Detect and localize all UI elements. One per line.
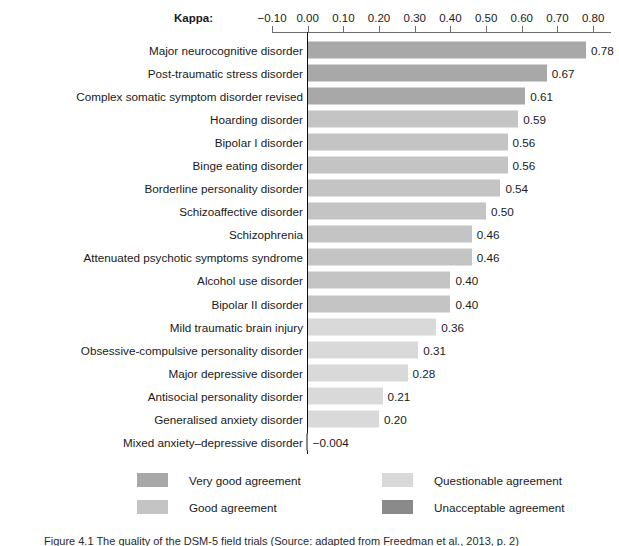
category-label: Post-traumatic stress disorder — [148, 66, 303, 79]
chart-row: Antisocial personality disorder0.21 — [0, 384, 619, 407]
bar-value-label: 0.46 — [477, 228, 500, 241]
category-label: Binge eating disorder — [193, 159, 303, 172]
chart-row: Alcohol use disorder0.40 — [0, 269, 619, 292]
bar-value-label: 0.40 — [455, 274, 478, 287]
bar-value-label: 0.50 — [491, 205, 514, 218]
chart-row: Post-traumatic stress disorder0.67 — [0, 61, 619, 84]
x-axis-tick-label: 0.30 — [404, 12, 426, 24]
category-label: Generalised anxiety disorder — [154, 413, 303, 426]
x-axis-tick-label: 0.60 — [511, 12, 533, 24]
bar-value-label: 0.56 — [513, 159, 536, 172]
bar-value-label: 0.31 — [423, 343, 446, 356]
bar-value-label: 0.54 — [505, 182, 528, 195]
x-axis-header: Kappa: −0.100.000.100.200.300.400.500.60… — [0, 12, 619, 28]
category-label: Attenuated psychotic symptoms syndrome — [83, 251, 303, 264]
category-label: Borderline personality disorder — [144, 182, 303, 195]
bar-value-label: 0.46 — [477, 251, 500, 264]
bar-value-label: 0.20 — [384, 413, 407, 426]
chart-row: Complex somatic symptom disorder revised… — [0, 84, 619, 107]
x-axis-title: Kappa: — [174, 12, 213, 24]
chart-row: Obsessive-compulsive personality disorde… — [0, 338, 619, 361]
x-axis-tick-mark — [272, 26, 273, 32]
x-axis-tick-label: 0.70 — [546, 12, 568, 24]
legend-label: Unacceptable agreement — [434, 498, 565, 518]
chart-legend: Very good agreementGood agreementQuestio… — [0, 471, 619, 523]
category-label: Major neurocognitive disorder — [149, 43, 303, 56]
bar-value-label: 0.78 — [591, 43, 614, 56]
category-label: Schizoaffective disorder — [179, 205, 303, 218]
x-axis-tick-label: 0.50 — [475, 12, 497, 24]
chart-row: Bipolar II disorder0.40 — [0, 292, 619, 315]
bar-questionable — [308, 318, 436, 335]
x-axis-tick-mark — [486, 26, 487, 32]
chart-row: Borderline personality disorder0.54 — [0, 177, 619, 200]
bar-questionable — [308, 387, 383, 404]
x-axis-tick-mark — [522, 26, 523, 32]
chart-row: Mild traumatic brain injury0.36 — [0, 315, 619, 338]
bar-good — [308, 272, 451, 289]
chart-row: Schizophrenia0.46 — [0, 223, 619, 246]
chart-row: Hoarding disorder0.59 — [0, 107, 619, 130]
bar-very-good — [308, 41, 586, 58]
x-axis-tick-label: 0.00 — [296, 12, 318, 24]
x-axis-line — [272, 32, 611, 33]
x-axis-tick-label: 0.20 — [368, 12, 390, 24]
bar-good — [308, 157, 508, 174]
bar-chart-plot-area: Major neurocognitive disorder0.78Post-tr… — [0, 38, 619, 454]
bar-value-label: 0.56 — [513, 135, 536, 148]
figure-caption: Figure 4.1 The quality of the DSM-5 fiel… — [44, 535, 604, 546]
legend-label: Good agreement — [189, 498, 277, 518]
x-axis-tick-label: −0.10 — [257, 12, 286, 24]
category-label: Complex somatic symptom disorder revised — [76, 89, 303, 102]
bar-value-label: 0.28 — [413, 366, 436, 379]
bar-value-label: 0.40 — [455, 297, 478, 310]
bar-very-good — [308, 64, 547, 81]
bar-value-label: 0.36 — [441, 320, 464, 333]
x-axis-tick-label: 0.80 — [582, 12, 604, 24]
x-axis-tick-mark — [343, 26, 344, 32]
category-label: Antisocial personality disorder — [148, 389, 303, 402]
chart-row: Schizoaffective disorder0.50 — [0, 200, 619, 223]
category-label: Bipolar I disorder — [215, 135, 303, 148]
x-axis-tick-mark — [450, 26, 451, 32]
chart-row: Mixed anxiety–depressive disorder−0.004 — [0, 431, 619, 454]
legend-swatch — [382, 500, 413, 514]
chart-row: Major depressive disorder0.28 — [0, 361, 619, 384]
category-label: Bipolar II disorder — [211, 297, 303, 310]
bar-good — [308, 110, 519, 127]
category-label: Hoarding disorder — [210, 112, 303, 125]
bar-good — [308, 249, 472, 266]
category-label: Schizophrenia — [229, 228, 303, 241]
category-label: Mild traumatic brain injury — [170, 320, 303, 333]
bar-good — [308, 295, 451, 312]
bar-very-good — [308, 87, 526, 104]
category-label: Alcohol use disorder — [197, 274, 303, 287]
figure-dsm5-field-trials-kappa-chart: Kappa: −0.100.000.100.200.300.400.500.60… — [0, 0, 619, 546]
chart-row: Major neurocognitive disorder0.78 — [0, 38, 619, 61]
bar-questionable — [308, 341, 419, 358]
x-axis-tick-mark — [557, 26, 558, 32]
bar-questionable — [308, 411, 379, 428]
category-label: Obsessive-compulsive personality disorde… — [81, 343, 303, 356]
chart-row: Generalised anxiety disorder0.20 — [0, 408, 619, 431]
bar-unacceptable — [306, 434, 307, 451]
bar-good — [308, 133, 508, 150]
x-axis-tick-label: 0.40 — [439, 12, 461, 24]
bar-value-label: 0.59 — [523, 112, 546, 125]
legend-label: Very good agreement — [189, 471, 301, 491]
chart-row: Attenuated psychotic symptoms syndrome0.… — [0, 246, 619, 269]
bar-good — [308, 180, 501, 197]
bar-good — [308, 203, 486, 220]
legend-swatch — [382, 473, 413, 487]
category-label: Mixed anxiety–depressive disorder — [123, 436, 303, 449]
legend-label: Questionable agreement — [434, 471, 562, 491]
x-axis-tick-mark — [415, 26, 416, 32]
bar-good — [308, 226, 472, 243]
x-axis-tick-label: 0.10 — [332, 12, 354, 24]
x-axis-tick-mark — [593, 26, 594, 32]
category-label: Major depressive disorder — [169, 366, 303, 379]
chart-row: Bipolar I disorder0.56 — [0, 130, 619, 153]
x-axis-tick-mark — [379, 26, 380, 32]
bar-questionable — [308, 364, 408, 381]
bar-value-label: 0.21 — [388, 389, 411, 402]
